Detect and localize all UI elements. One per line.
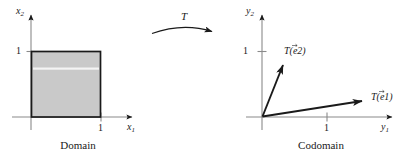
vector-T-e2 xyxy=(263,65,284,117)
right-x-axis-label: y1 xyxy=(381,122,389,134)
figure-container: x2 x1 1 1 Domain T y2 y1 1 1 Codomain T(… xyxy=(0,0,406,165)
left-x-axis-label: x1 xyxy=(127,122,135,134)
left-y-axis-label: x2 xyxy=(16,6,24,18)
vector-label-T-e2: T(e2) xyxy=(284,46,306,56)
right-y-tick-1: 1 xyxy=(243,46,248,56)
e2-vector-symbol: e xyxy=(293,46,297,56)
left-x-tick-1: 1 xyxy=(98,123,103,133)
right-panel-axes xyxy=(246,15,392,130)
transformation-arc xyxy=(152,27,212,33)
unit-square-region xyxy=(32,52,101,118)
right-panel-caption: Codomain xyxy=(290,140,352,151)
vector-label-T-e1: T(e1) xyxy=(371,92,393,102)
right-y-axis-label: y2 xyxy=(246,6,254,18)
left-y-tick-1: 1 xyxy=(16,46,21,56)
e1-vector-symbol: e xyxy=(380,92,384,102)
left-panel-caption: Domain xyxy=(46,140,110,151)
right-x-tick-1: 1 xyxy=(324,123,329,133)
transformation-label: T xyxy=(181,11,187,22)
vector-T-e1 xyxy=(263,101,363,117)
